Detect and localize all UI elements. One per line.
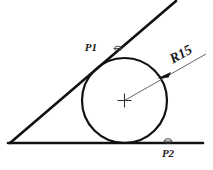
label-p1: P1: [85, 41, 97, 53]
label-p2: P2: [162, 147, 175, 159]
technical-drawing-canvas: P1 P2 R15: [0, 0, 213, 170]
figure-caption: [0, 159, 213, 170]
diagram-svg: P1 P2 R15: [0, 0, 213, 170]
